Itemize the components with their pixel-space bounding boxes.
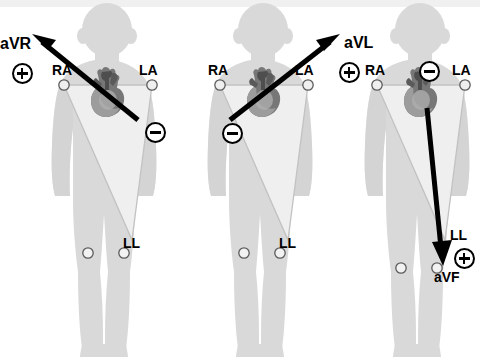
- body-silhouette: [365, 3, 470, 357]
- body-figure-avf: [339, 0, 480, 361]
- electrode-ra: [372, 80, 382, 90]
- body-figure-avr: [26, 0, 186, 361]
- polarity-positive-avr: [12, 63, 33, 84]
- body-silhouette: [52, 3, 157, 357]
- label-ll: LL: [123, 236, 140, 250]
- electrode-la: [460, 80, 470, 90]
- panel-avr: RA LA LL aVR: [26, 0, 186, 361]
- label-ra: RA: [52, 63, 72, 77]
- electrode-ra: [215, 80, 225, 90]
- label-la: LA: [139, 63, 158, 77]
- panel-avl: RA LA LL aVL: [182, 0, 342, 361]
- label-la: LA: [295, 63, 314, 77]
- label-ll: LL: [450, 228, 467, 242]
- polarity-negative-avl: [222, 123, 243, 144]
- electrode-la: [147, 80, 157, 90]
- electrode-la: [303, 80, 313, 90]
- panel-avf: RA LA LL aVF: [339, 0, 480, 361]
- ecg-augmented-leads-diagram: RA LA LL aVR: [0, 0, 480, 361]
- label-ra: RA: [365, 63, 385, 77]
- polarity-negative-avf: [419, 61, 440, 82]
- polarity-positive-avf: [454, 248, 475, 269]
- body-silhouette: [208, 3, 313, 357]
- label-la: LA: [452, 63, 471, 77]
- label-lead-avf: aVF: [434, 270, 460, 284]
- electrode-rl: [83, 248, 93, 258]
- label-lead-avr: aVR: [0, 36, 31, 52]
- electrode-rl: [239, 248, 249, 258]
- body-figure-avl: [182, 0, 342, 361]
- electrode-ra: [59, 80, 69, 90]
- label-ll: LL: [279, 236, 296, 250]
- electrode-rl: [396, 263, 406, 273]
- label-ra: RA: [208, 63, 228, 77]
- polarity-negative-avr: [145, 122, 166, 143]
